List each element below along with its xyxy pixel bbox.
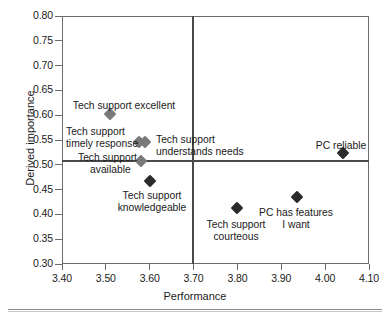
scatter-chart-figure: 0.800.750.700.650.600.550.500.450.400.35… — [0, 0, 390, 318]
point-label: Tech support — [123, 190, 182, 202]
y-tick-mark — [55, 189, 62, 190]
point-label: available — [90, 164, 131, 176]
x-tick-label: 3.80 — [227, 272, 247, 284]
x-tick-label: 3.70 — [184, 272, 204, 284]
y-tick-label: 0.35 — [33, 232, 53, 244]
point-label: Tech support — [207, 219, 266, 231]
point-label: PC reliable — [316, 140, 366, 152]
x-tick-mark — [369, 264, 370, 270]
x-axis-title: Performance — [0, 290, 390, 302]
y-tick-label: 0.80 — [33, 9, 53, 21]
point-label: Tech support — [66, 126, 125, 138]
y-tick-mark — [55, 239, 62, 240]
point-label: Tech support excellent — [73, 100, 175, 112]
y-tick-mark — [55, 140, 62, 141]
x-tick-mark — [62, 264, 63, 270]
x-tick-mark — [193, 264, 194, 270]
x-tick-label: 3.60 — [140, 272, 160, 284]
y-tick-mark — [55, 90, 62, 91]
y-tick-mark — [55, 164, 62, 165]
point-label: Tech support — [78, 152, 137, 164]
point-label: timely response — [66, 138, 138, 150]
x-tick-mark — [237, 264, 238, 270]
y-tick-mark — [55, 214, 62, 215]
y-tick-mark — [55, 16, 62, 17]
point-label: knowledgeable — [118, 202, 187, 214]
x-tick-mark — [149, 264, 150, 270]
point-label: PC has features — [259, 207, 333, 219]
x-tick-mark — [325, 264, 326, 270]
x-tick-label: 4.10 — [359, 272, 379, 284]
x-tick-label: 3.40 — [52, 272, 72, 284]
y-tick-mark — [55, 65, 62, 66]
footer-divider-shadow — [8, 311, 382, 312]
y-tick-mark — [55, 40, 62, 41]
x-tick-label: 3.90 — [271, 272, 291, 284]
y-tick-label: 0.75 — [33, 34, 53, 46]
point-label: understands needs — [156, 146, 244, 158]
point-label: courteous — [213, 231, 258, 243]
x-tick-label: 3.50 — [96, 272, 116, 284]
x-tick-label: 4.00 — [315, 272, 335, 284]
point-label: Tech support — [156, 134, 215, 146]
y-axis-title: Derived importance — [24, 53, 36, 223]
y-tick-label: 0.30 — [33, 257, 53, 269]
x-tick-mark — [281, 264, 282, 270]
x-tick-mark — [105, 264, 106, 270]
y-tick-mark — [55, 115, 62, 116]
point-label: I want — [282, 219, 309, 231]
footer-divider — [8, 309, 382, 310]
